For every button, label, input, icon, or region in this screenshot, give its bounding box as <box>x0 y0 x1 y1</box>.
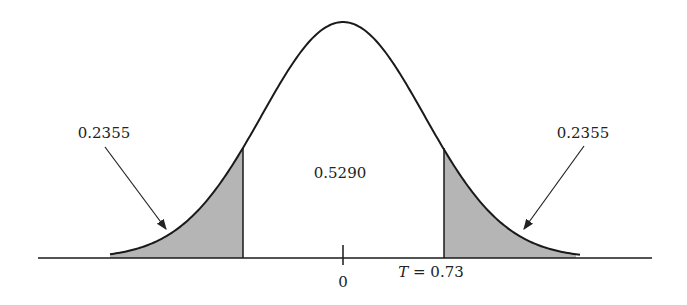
left-tail-shaded-region <box>110 148 243 258</box>
left-tail-arrow <box>105 147 166 229</box>
left-tail-label: 0.2355 <box>78 124 131 142</box>
cutoff-label: T = 0.73 <box>398 263 464 281</box>
middle-area-label: 0.5290 <box>314 164 367 182</box>
cutoff-value: = 0.73 <box>408 263 464 281</box>
right-tail-shaded-region <box>444 150 576 258</box>
zero-label: 0 <box>338 273 348 291</box>
normal-distribution-chart: 0.2355 0.5290 0.2355 0 T = 0.73 <box>0 0 687 305</box>
bell-curve <box>110 22 580 255</box>
right-tail-arrow <box>524 146 584 229</box>
right-tail-label: 0.2355 <box>557 124 610 142</box>
